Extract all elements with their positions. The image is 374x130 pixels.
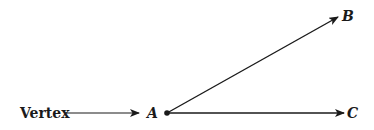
point-label-c: C xyxy=(347,105,358,121)
angle-diagram: Vertex A B C xyxy=(0,0,374,130)
ray-ab xyxy=(167,17,338,113)
vertex-label-a: A xyxy=(145,105,158,121)
vertex-caption: Vertex xyxy=(19,105,70,121)
point-label-b: B xyxy=(341,8,354,24)
